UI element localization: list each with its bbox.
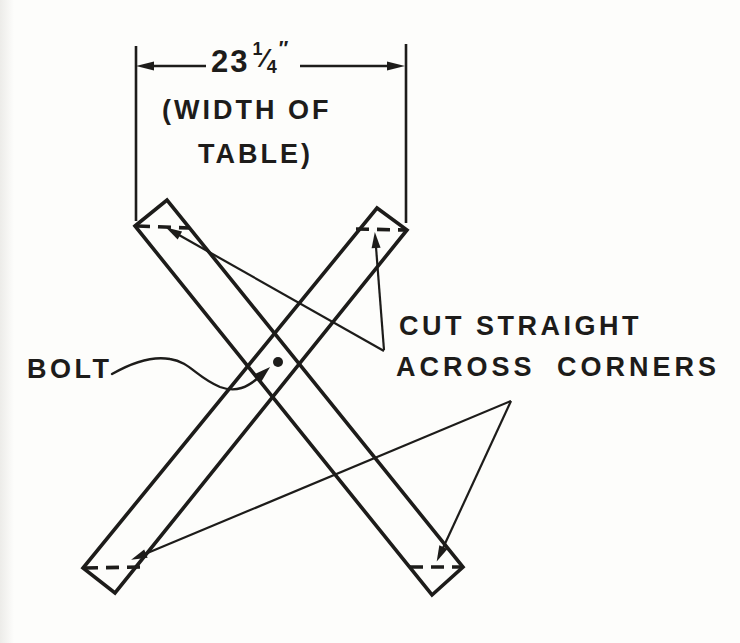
dimension-inch-mark: ″ — [279, 38, 289, 58]
leg-board-b — [83, 208, 407, 593]
bolt-dot — [273, 357, 283, 367]
dimension-note-line2: TABLE) — [198, 141, 313, 168]
bolt-leader-line — [112, 358, 259, 389]
cut-dash-bottom-left — [85, 567, 140, 568]
cut-leader-arrow-top-left — [179, 235, 384, 351]
dimension-note-line1: (WIDTH OF — [162, 97, 331, 124]
dimension-value: 23 1 ⁄ 4 ″ — [211, 46, 288, 77]
bolt-label: BOLT — [27, 356, 112, 383]
leg-board-a — [135, 200, 463, 595]
cut-instruction-line2: ACROSS CORNERS — [396, 354, 720, 381]
dimension-whole-number: 23 — [211, 46, 249, 77]
dimension-fraction-denominator: 4 — [267, 58, 277, 76]
cut-leader-arrow-bottom-right — [443, 401, 511, 548]
cut-instruction-line1: CUT STRAIGHT — [399, 313, 642, 340]
cut-dash-top-right — [356, 229, 406, 230]
drawing-canvas: 23 1 ⁄ 4 ″ (WIDTH OF TABLE) BOLT CUT STR… — [0, 0, 740, 643]
dimension-fraction-numerator: 1 — [252, 40, 262, 58]
cut-dash-top-left — [137, 226, 189, 228]
